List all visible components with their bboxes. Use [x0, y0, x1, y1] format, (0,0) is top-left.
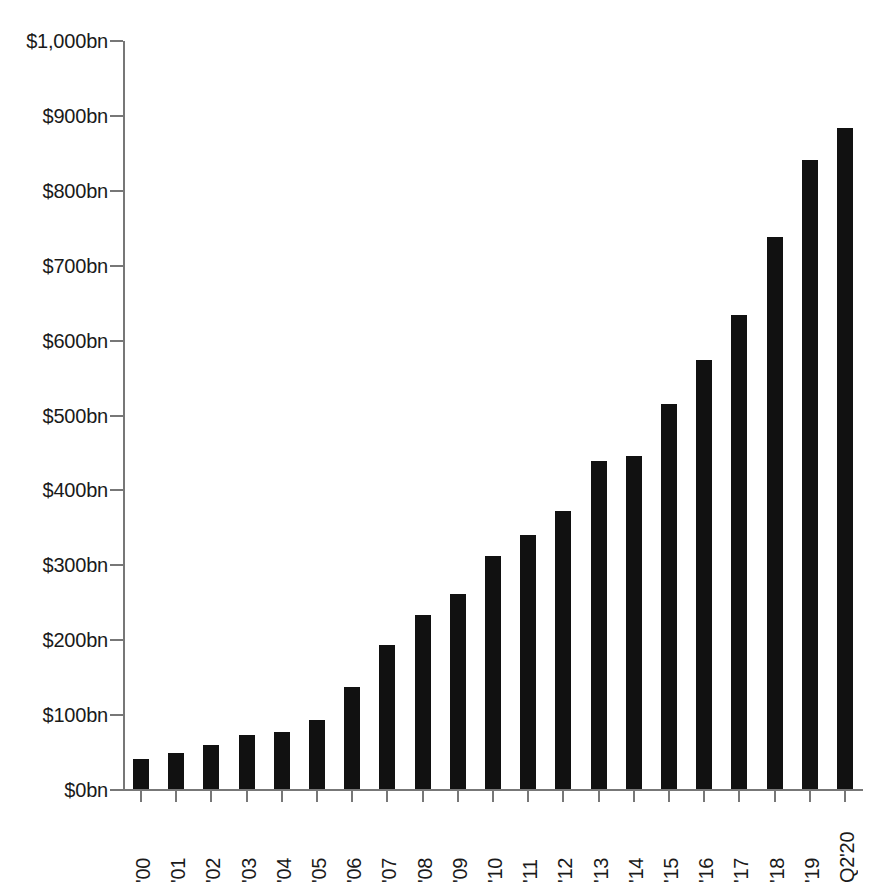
x-axis-tick-label: '02	[195, 803, 231, 883]
x-axis-tick-mark	[668, 791, 670, 802]
bar-slot	[582, 41, 618, 790]
x-axis-tick-label: '07	[371, 803, 407, 883]
x-axis-tick-mark	[844, 791, 846, 802]
x-axis-tick-label: '06	[336, 803, 372, 883]
bar[interactable]	[767, 237, 783, 791]
bar-slot	[546, 41, 582, 790]
x-axis-tick-label: '00	[125, 803, 161, 883]
y-axis-tick-mark	[110, 190, 123, 192]
bar[interactable]	[344, 687, 360, 790]
x-axis-tick-mark	[351, 791, 353, 802]
x-axis-tick-label: '14	[618, 803, 654, 883]
bar[interactable]	[274, 732, 290, 790]
bar[interactable]	[555, 511, 571, 790]
x-axis-tick-label: '10	[477, 803, 513, 883]
bar-slot	[124, 41, 160, 790]
x-axis-tick-label: '09	[442, 803, 478, 883]
y-axis-label-group: $0bn$100bn$200bn$300bn$400bn$500bn$600bn…	[0, 0, 108, 890]
y-axis-tick-label: $100bn	[0, 705, 108, 725]
y-axis-tick-mark	[110, 639, 123, 641]
bar[interactable]	[661, 404, 677, 790]
bar[interactable]	[133, 759, 149, 790]
bar-slot	[793, 41, 829, 790]
y-axis-tick-group	[110, 0, 124, 890]
x-axis-tick-label: '13	[583, 803, 619, 883]
bar[interactable]	[802, 160, 818, 790]
plot-area	[124, 41, 863, 790]
x-axis-label-group: '00'01'02'03'04'05'06'07'08'09'10'11'12'…	[124, 803, 869, 890]
bar[interactable]	[837, 128, 853, 790]
y-axis-tick-label: $500bn	[0, 406, 108, 426]
x-axis-tick-label: '01	[160, 803, 196, 883]
bar[interactable]	[203, 745, 219, 790]
x-axis-tick-mark	[457, 791, 459, 802]
bar-slot	[300, 41, 336, 790]
x-axis-tick-mark	[738, 791, 740, 802]
x-axis-tick-group	[124, 791, 863, 803]
x-axis-tick-mark	[422, 791, 424, 802]
bar-slot	[687, 41, 723, 790]
y-axis-tick-mark	[110, 115, 123, 117]
x-axis-tick-mark	[386, 791, 388, 802]
x-axis-tick-mark	[316, 791, 318, 802]
bar[interactable]	[591, 461, 607, 790]
bar[interactable]	[485, 556, 501, 790]
bar[interactable]	[626, 456, 642, 790]
x-axis-tick-mark	[246, 791, 248, 802]
x-axis-tick-label: '05	[301, 803, 337, 883]
x-axis-tick-label: '15	[653, 803, 689, 883]
bar-slot	[230, 41, 266, 790]
y-axis-tick-label: $400bn	[0, 480, 108, 500]
y-axis-tick-label: $600bn	[0, 331, 108, 351]
x-axis-tick-mark	[633, 791, 635, 802]
x-axis-tick-label: '03	[231, 803, 267, 883]
x-axis-tick-label: '17	[723, 803, 759, 883]
bar[interactable]	[379, 645, 395, 790]
bar-slot	[441, 41, 477, 790]
bar[interactable]	[731, 315, 747, 790]
y-axis-tick-label: $300bn	[0, 555, 108, 575]
bar[interactable]	[450, 594, 466, 790]
bar-slot	[828, 41, 864, 790]
y-axis-tick-mark	[110, 564, 123, 566]
x-axis-tick-mark	[492, 791, 494, 802]
bar[interactable]	[415, 615, 431, 790]
bar-slot	[652, 41, 688, 790]
bar-slot	[370, 41, 406, 790]
bar[interactable]	[520, 535, 536, 790]
x-axis-tick-label: '16	[688, 803, 724, 883]
bar-slot	[265, 41, 301, 790]
bar-slot	[406, 41, 442, 790]
y-axis-tick-label: $700bn	[0, 256, 108, 276]
y-axis-tick-label: $200bn	[0, 630, 108, 650]
bar[interactable]	[696, 360, 712, 790]
x-axis-tick-mark	[598, 791, 600, 802]
bar-slot	[194, 41, 230, 790]
x-axis-tick-label: '08	[407, 803, 443, 883]
bar-slot	[758, 41, 794, 790]
x-axis-tick-mark	[562, 791, 564, 802]
y-axis-tick-mark	[110, 40, 123, 42]
bar-slot	[159, 41, 195, 790]
x-axis-tick-mark	[281, 791, 283, 802]
y-axis-tick-mark	[110, 340, 123, 342]
bar-slot	[335, 41, 371, 790]
y-axis-tick-mark	[110, 714, 123, 716]
x-axis-tick-mark	[809, 791, 811, 802]
x-axis-tick-label: '19	[794, 803, 830, 883]
y-axis-tick-label: $800bn	[0, 181, 108, 201]
x-axis-tick-label: '04	[266, 803, 302, 883]
bar[interactable]	[309, 720, 325, 790]
bar[interactable]	[168, 753, 184, 790]
x-axis-tick-mark	[175, 791, 177, 802]
x-axis-tick-label: Q2'20	[829, 803, 865, 883]
y-axis-tick-label: $900bn	[0, 106, 108, 126]
x-axis-tick-mark	[703, 791, 705, 802]
x-axis-tick-mark	[210, 791, 212, 802]
bar[interactable]	[239, 735, 255, 790]
bar-chart: $0bn$100bn$200bn$300bn$400bn$500bn$600bn…	[0, 0, 871, 890]
bar-slot	[617, 41, 653, 790]
y-axis-tick-mark	[110, 489, 123, 491]
y-axis-tick-label: $1,000bn	[0, 31, 108, 51]
y-axis-tick-mark	[110, 265, 123, 267]
